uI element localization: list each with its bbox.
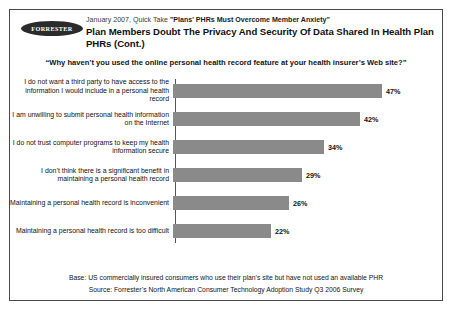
- bar-category-label: I am unwilling to submit personal health…: [10, 111, 173, 128]
- bar-value-label: 26%: [293, 199, 307, 208]
- bar-track: 34%: [173, 133, 442, 161]
- bar-value-label: 34%: [328, 143, 342, 152]
- kicker-line: January 2007, Quick Take "Plans' PHRs Mu…: [86, 16, 434, 25]
- header-text-block: January 2007, Quick Take "Plans' PHRs Mu…: [86, 14, 434, 50]
- bar-fill: [173, 84, 382, 98]
- slide-footer: Base: US commercially insured consumers …: [10, 274, 442, 294]
- bar-fill: [173, 224, 271, 238]
- bar-fill: [173, 196, 289, 210]
- bar-fill: [173, 112, 360, 126]
- bar-track: 47%: [173, 77, 442, 105]
- base-note: Base: US commercially insured consumers …: [50, 274, 402, 283]
- bar-track: 29%: [173, 161, 442, 189]
- bar-chart: I do not want a third party to have acce…: [10, 77, 442, 245]
- page-title: Plan Members Doubt The Privacy And Secur…: [86, 26, 434, 50]
- slide-frame: FORRESTER January 2007, Quick Take "Plan…: [9, 9, 443, 301]
- chart-row: I do not trust computer programs to keep…: [10, 133, 442, 161]
- bar-value-label: 22%: [275, 227, 289, 236]
- source-note: Source: Forrester’s North American Consu…: [10, 285, 442, 294]
- bar-fill: [173, 168, 302, 182]
- bar-category-label: I don’t think there is a significant ben…: [10, 167, 173, 184]
- slide-header: FORRESTER January 2007, Quick Take "Plan…: [10, 10, 442, 52]
- chart-row: I am unwilling to submit personal health…: [10, 105, 442, 133]
- chart-question: “Why haven’t you used the online persona…: [44, 58, 408, 68]
- bar-value-label: 42%: [364, 115, 378, 124]
- bar-category-label: I do not want a third party to have acce…: [10, 78, 173, 103]
- chart-row: I do not want a third party to have acce…: [10, 77, 442, 105]
- bar-track: 22%: [173, 217, 442, 245]
- bar-track: 42%: [173, 105, 442, 133]
- chart-row: Maintaining a personal health record is …: [10, 189, 442, 217]
- chart-row: Maintaining a personal health record is …: [10, 217, 442, 245]
- kicker-report-title: "Plans' PHRs Must Overcome Member Anxiet…: [170, 16, 330, 24]
- bar-value-label: 29%: [306, 171, 320, 180]
- bar-category-label: Maintaining a personal health record is …: [10, 227, 173, 235]
- bar-value-label: 47%: [386, 87, 400, 96]
- bar-track: 26%: [173, 189, 442, 217]
- chart-rows: I do not want a third party to have acce…: [10, 77, 442, 245]
- chart-row: I don’t think there is a significant ben…: [10, 161, 442, 189]
- bar-category-label: I do not trust computer programs to keep…: [10, 139, 173, 156]
- forrester-logo: FORRESTER: [21, 21, 83, 36]
- bar-category-label: Maintaining a personal health record is …: [10, 199, 173, 207]
- kicker-date: January 2007, Quick Take: [86, 16, 170, 24]
- bar-fill: [173, 140, 324, 154]
